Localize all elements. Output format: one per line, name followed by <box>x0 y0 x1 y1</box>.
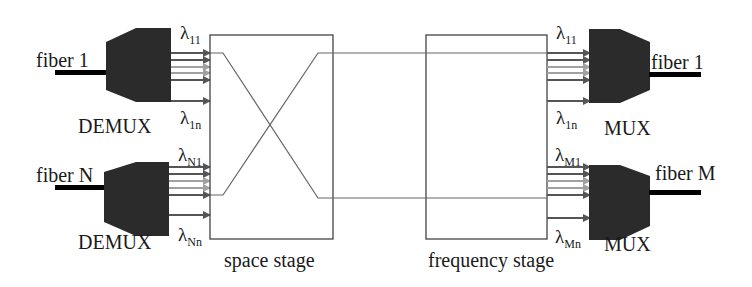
space-stage-label: space stage <box>224 250 315 270</box>
space-stage-box <box>210 35 333 239</box>
demux-n-arrows <box>169 167 210 215</box>
lambda-in-n-bottom: λNn <box>178 225 202 248</box>
output-fiber-m-label: fiber M <box>655 163 716 183</box>
output-fiber-1-label: fiber 1 <box>651 52 704 72</box>
demux-n-body <box>104 162 169 236</box>
lambda-out-1-bottom: λ1n <box>556 108 577 131</box>
input-fiber-n-label: fiber N <box>36 165 93 185</box>
lambda-in-1-bottom: λ1n <box>180 108 201 131</box>
demux-1-body <box>106 28 171 102</box>
fiber-out-m-line <box>649 190 701 195</box>
mux-1-arrows <box>547 53 590 101</box>
mux-m-body <box>589 165 650 240</box>
output-mux-m-label: MUX <box>604 234 651 254</box>
demux-1-arrows <box>171 53 210 101</box>
lambda-out-1-top: λ11 <box>556 23 577 46</box>
frequency-stage-box <box>426 35 547 239</box>
mux-1-body <box>589 29 650 103</box>
input-demux-1-label: DEMUX <box>78 116 151 136</box>
lambda-in-1-top: λ11 <box>180 23 201 46</box>
frequency-stage-label: frequency stage <box>428 250 554 270</box>
input-fiber-1-label: fiber 1 <box>36 50 89 70</box>
mux-m-arrows <box>547 167 590 218</box>
lambda-out-m-bottom: λMn <box>555 227 581 250</box>
connection-1-to-m <box>210 53 547 198</box>
connection-n-to-1 <box>210 53 547 195</box>
input-demux-n-label: DEMUX <box>78 232 151 252</box>
lambda-in-n-top: λN1 <box>178 145 202 168</box>
output-mux-1-label: MUX <box>604 118 651 138</box>
lambda-out-m-top: λM1 <box>555 145 581 168</box>
connections <box>210 53 547 198</box>
